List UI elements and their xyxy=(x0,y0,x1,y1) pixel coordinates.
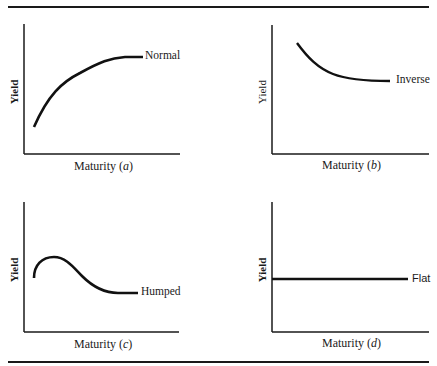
curve-label-normal: Normal xyxy=(145,49,180,61)
flat-curve-plot xyxy=(218,180,437,360)
normal-curve-plot xyxy=(0,0,218,180)
panel-normal: Yield Normal Maturity (a) xyxy=(0,0,218,180)
humped-curve xyxy=(34,257,138,293)
x-axis-label: Maturity (a) xyxy=(74,159,133,174)
y-axis-label: Yield xyxy=(256,258,268,283)
x-axis-label: Maturity (d) xyxy=(322,336,381,351)
curve-label-humped: Humped xyxy=(141,285,181,297)
bottom-rule xyxy=(8,361,429,363)
inverse-curve-plot xyxy=(218,0,437,180)
x-axis-label: Maturity (c) xyxy=(74,337,132,352)
curve-label-flat: Flat xyxy=(412,272,430,284)
x-axis-label: Maturity (b) xyxy=(322,158,381,173)
y-axis-label: Yield xyxy=(8,258,20,283)
humped-curve-plot xyxy=(0,180,218,360)
y-axis-label: Yield xyxy=(256,80,268,104)
panel-humped: Yield Humped Maturity (c) xyxy=(0,180,218,360)
normal-curve xyxy=(34,57,143,127)
panel-inverse: Yield Inverse Maturity (b) xyxy=(218,0,437,180)
panel-flat: Yield Flat Maturity (d) xyxy=(218,180,437,360)
curve-label-inverse: Inverse xyxy=(396,73,430,85)
inverse-curve xyxy=(297,43,390,81)
y-axis-label: Yield xyxy=(8,80,20,105)
